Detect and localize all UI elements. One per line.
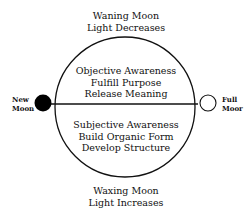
subjective-awareness: Subjective Awareness [68,119,184,131]
full-moon-icon [200,95,216,111]
full-moon-line1: Full [222,95,243,104]
objective-awareness: Objective Awareness [70,65,182,77]
waxing-moon-label: Waxing Moon Light Increases [76,185,176,208]
new-moon-label: New Moon [12,95,34,113]
waning-title: Waning Moon [76,10,176,22]
build-organic-form: Build Organic Form [68,131,184,143]
develop-structure: Develop Structure [68,142,184,154]
full-moon-label: Full Moor [222,95,243,113]
new-moon-line1: New [12,95,34,104]
waxing-title: Waxing Moon [76,185,176,197]
release-meaning: Release Meaning [70,88,182,100]
waning-moon-label: Waning Moon Light Decreases [76,10,176,33]
lower-half-text: Subjective Awareness Build Organic Form … [68,119,184,154]
full-moon-line2: Moor [222,104,243,113]
new-moon-icon [35,95,52,112]
waning-subtitle: Light Decreases [76,22,176,34]
new-moon-line2: Moon [12,104,34,113]
cycle-circle [55,37,195,177]
fulfill-purpose: Fulfill Purpose [70,77,182,89]
waxing-subtitle: Light Increases [76,197,176,209]
upper-half-text: Objective Awareness Fulfill Purpose Rele… [70,65,182,100]
